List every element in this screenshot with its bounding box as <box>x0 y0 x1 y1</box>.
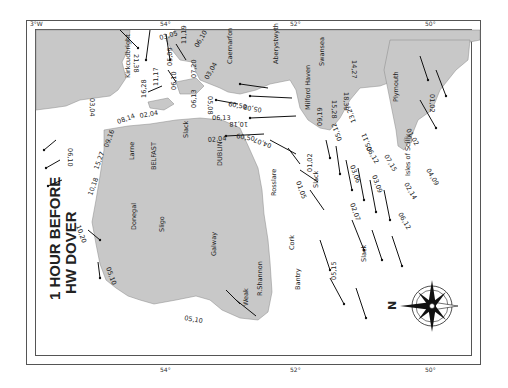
svg-text:05,12: 05,12 <box>330 122 344 142</box>
svg-text:04,07: 04,07 <box>252 136 272 150</box>
svg-text:1 HOUR BEFORE: 1 HOUR BEFORE <box>46 177 63 300</box>
svg-text:02,04: 02,04 <box>139 109 159 120</box>
svg-text:Sligo: Sligo <box>158 216 166 232</box>
svg-text:Larne: Larne <box>128 142 136 160</box>
svg-text:09,19: 09,19 <box>316 107 324 126</box>
svg-text:Caernarfon: Caernarfon <box>226 28 234 64</box>
svg-text:52°: 52° <box>290 366 301 373</box>
svg-text:15,28: 15,28 <box>330 100 338 119</box>
svg-text:54°: 54° <box>160 366 171 373</box>
svg-text:05,08: 05,08 <box>206 96 214 115</box>
svg-text:01,05: 01,05 <box>294 180 308 200</box>
svg-text:06,13: 06,13 <box>212 114 231 122</box>
map-title: 1 HOUR BEFORE HW DOVER <box>46 177 79 300</box>
svg-text:50°: 50° <box>425 20 436 27</box>
svg-text:01,02: 01,02 <box>428 94 436 113</box>
svg-text:Bantry: Bantry <box>294 268 302 290</box>
svg-text:DUBLIN: DUBLIN <box>216 141 224 166</box>
svg-text:N: N <box>386 301 399 310</box>
svg-text:04,09: 04,09 <box>424 167 440 187</box>
svg-text:21,38: 21,38 <box>132 54 140 73</box>
svg-text:52°: 52° <box>290 20 301 27</box>
svg-text:05,10: 05,10 <box>184 314 204 325</box>
svg-text:05,08: 05,08 <box>243 103 263 114</box>
svg-text:Cork: Cork <box>288 235 296 250</box>
svg-text:06,10: 06,10 <box>66 148 74 167</box>
svg-text:05,15: 05,15 <box>330 261 338 280</box>
svg-text:Slack: Slack <box>360 245 368 262</box>
svg-text:Slack: Slack <box>182 121 190 138</box>
svg-text:16,28: 16,28 <box>140 79 148 98</box>
compass-rose: N <box>386 280 458 332</box>
svg-text:11,19: 11,19 <box>180 25 188 44</box>
svg-text:10,18: 10,18 <box>229 120 248 128</box>
svg-text:Donegal: Donegal <box>130 203 138 230</box>
svg-text:Milford Haven: Milford Haven <box>304 65 312 110</box>
svg-text:06,12: 06,12 <box>364 145 380 165</box>
svg-text:Aberystwyth: Aberystwyth <box>272 23 280 64</box>
svg-text:02,04: 02,04 <box>207 134 226 144</box>
svg-text:05,09: 05,09 <box>166 47 174 66</box>
svg-text:R.Shannon: R.Shannon <box>256 261 264 296</box>
svg-text:Rosslare: Rosslare <box>270 169 278 196</box>
svg-text:50°: 50° <box>425 366 436 373</box>
svg-text:Galway: Galway <box>210 232 218 256</box>
svg-text:3°W: 3°W <box>30 20 43 27</box>
svg-text:13,27: 13,27 <box>344 104 358 124</box>
svg-text:11,17: 11,17 <box>152 67 160 86</box>
svg-text:02,07: 02,07 <box>348 202 362 222</box>
svg-text:07,15: 07,15 <box>382 153 398 173</box>
svg-text:Plymouth: Plymouth <box>392 71 400 102</box>
svg-text:HW DOVER: HW DOVER <box>62 211 79 294</box>
svg-text:03,04: 03,04 <box>88 98 96 117</box>
svg-text:BELFAST: BELFAST <box>150 142 158 170</box>
svg-text:06,10: 06,10 <box>170 71 178 90</box>
svg-text:01,02: 01,02 <box>306 153 314 172</box>
svg-text:02,14: 02,14 <box>402 181 418 201</box>
svg-text:06,12: 06,12 <box>396 211 412 231</box>
svg-text:06,13: 06,13 <box>190 89 198 108</box>
svg-text:Weak: Weak <box>242 288 250 306</box>
tidal-stream-map: 1 HOUR BEFORE HW DOVER Kirkcudbright Cae… <box>0 0 508 388</box>
svg-text:07,20: 07,20 <box>190 59 198 78</box>
svg-text:54°: 54° <box>160 20 171 27</box>
svg-text:08,14: 08,14 <box>116 112 136 126</box>
svg-text:14,27: 14,27 <box>350 60 358 79</box>
svg-text:Swansea: Swansea <box>318 37 326 66</box>
